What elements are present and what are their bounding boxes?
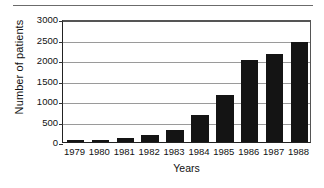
- bar: [191, 115, 208, 142]
- bar: [241, 60, 258, 142]
- y-tick-label: 0: [22, 138, 58, 148]
- bar: [216, 95, 233, 142]
- y-tick-label: 1000: [22, 97, 58, 107]
- x-tick-label: 1979: [62, 146, 87, 157]
- bar: [141, 135, 158, 142]
- x-tick-label: 1983: [162, 146, 187, 157]
- top-divider-rule: [13, 5, 313, 6]
- x-tick-label: 1984: [187, 146, 212, 157]
- bar: [266, 54, 283, 142]
- y-tick-label: 3000: [22, 15, 58, 25]
- y-tick-mark: [59, 144, 63, 145]
- x-tick-label: 1988: [286, 146, 311, 157]
- y-axis-tick-labels: 050010001500200025003000: [22, 14, 58, 149]
- x-tick-label: 1982: [137, 146, 162, 157]
- y-tick-label: 2500: [22, 36, 58, 46]
- bar: [291, 42, 308, 142]
- bar-chart-figure: Number of patients 050010001500200025003…: [0, 0, 324, 188]
- x-tick-label: 1986: [236, 146, 261, 157]
- y-tick-label: 500: [22, 118, 58, 128]
- y-tick-label: 2000: [22, 56, 58, 66]
- x-axis-title: Years: [62, 162, 311, 174]
- x-tick-label: 1985: [211, 146, 236, 157]
- y-tick-label: 1500: [22, 77, 58, 87]
- x-tick-label: 1981: [112, 146, 137, 157]
- x-axis-tick-labels: 1979198019811982198319841985198619871988: [62, 146, 311, 160]
- bar: [117, 138, 134, 142]
- plot-area: [62, 20, 311, 143]
- x-tick-label: 1987: [261, 146, 286, 157]
- x-tick-label: 1980: [87, 146, 112, 157]
- bar: [92, 140, 109, 142]
- bar: [67, 140, 84, 142]
- bar-series: [63, 21, 310, 142]
- bar: [166, 130, 183, 142]
